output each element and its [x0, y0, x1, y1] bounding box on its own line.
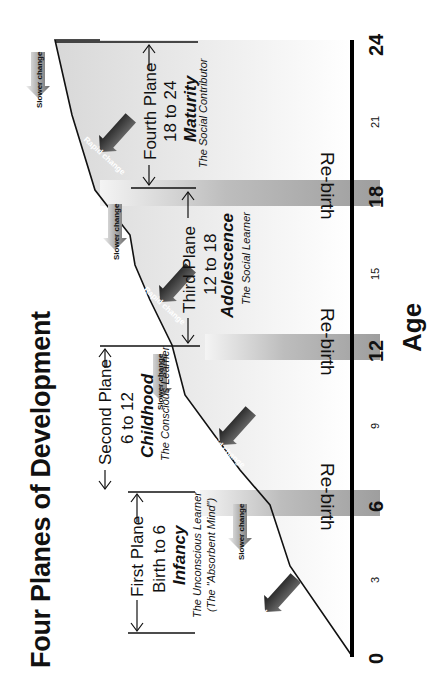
plane-3-heading: Third Plane	[180, 226, 200, 313]
tick-12: 12	[365, 340, 388, 362]
rebirth-label-12: Re-birth	[316, 308, 338, 376]
axis-label-age: Age	[397, 303, 428, 352]
plane-4-subtitle: The Social Contributor	[197, 59, 209, 168]
diagram-title: Four Planes of Development	[26, 311, 57, 668]
plane-4-heading: Fourth Plane	[141, 63, 161, 160]
slower-change-label-3: Slower change	[112, 204, 121, 260]
tick-21: 21	[369, 116, 381, 128]
plane-1-subtitle-2: (The "Absorbent Mind")	[205, 498, 217, 612]
tick-15: 15	[369, 268, 381, 280]
slower-change-label-1: Slower change	[237, 504, 246, 560]
plane-2-range: 6 to 12	[118, 392, 138, 444]
slower-change-label-2: Slower change	[156, 354, 165, 410]
tick-9: 9	[369, 423, 381, 429]
plane-3-name: Adolescence	[218, 213, 238, 318]
plane-1-heading: First Plane	[128, 516, 148, 597]
plane-4-range: 18 to 24	[161, 81, 181, 142]
tick-24: 24	[365, 34, 388, 56]
slower-change-label-4: Slower change	[35, 52, 44, 108]
tick-18: 18	[365, 186, 388, 208]
tick-3: 3	[369, 577, 381, 583]
plane-1-range: Birth to 6	[150, 525, 170, 593]
tick-6: 6	[365, 501, 388, 512]
plane-2-heading: Second Plane	[96, 359, 116, 465]
plane-2-name: Childhood	[138, 374, 158, 458]
plane-3-subtitle: The Social Learner	[240, 212, 252, 305]
plane-1-subtitle: The Unconscious Learner	[191, 492, 203, 618]
development-curve-diagram	[0, 0, 446, 677]
tick-0: 0	[365, 653, 388, 664]
rebirth-band-18	[100, 180, 380, 206]
plane-1-name: Infancy	[170, 525, 190, 585]
rebirth-label-18: Re-birth	[316, 152, 338, 220]
rebirth-label-6: Re-birth	[316, 463, 338, 531]
